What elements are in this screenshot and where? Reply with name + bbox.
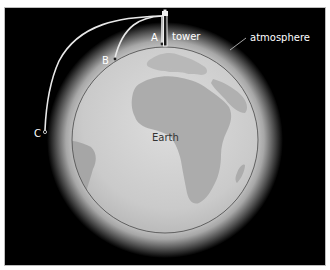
diagram-frame: A tower atmosphere B C Earth xyxy=(4,7,326,266)
label-point-b: B xyxy=(102,55,109,66)
label-tower: tower xyxy=(172,31,201,42)
label-atmosphere: atmosphere xyxy=(250,32,310,43)
landing-point-a xyxy=(161,43,164,46)
landing-point-c xyxy=(43,130,46,133)
label-point-c: C xyxy=(34,128,41,139)
cannonball-diagram: A tower atmosphere B C Earth xyxy=(5,8,326,266)
landing-point-b xyxy=(114,58,117,61)
label-point-a: A xyxy=(151,32,158,43)
label-earth: Earth xyxy=(152,132,179,143)
